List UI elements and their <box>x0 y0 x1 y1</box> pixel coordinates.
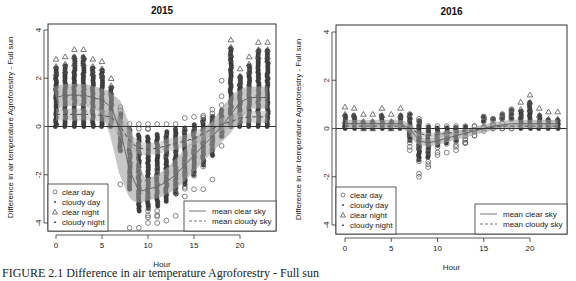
y-tick-label: 4 <box>322 29 331 34</box>
y-tick-label: 4 <box>34 27 43 32</box>
y-axis: -4-2024Difference in air temperature Agr… <box>6 27 48 226</box>
y-axis-label: Difference in air temperature Agroforest… <box>294 39 303 221</box>
x-axis-label: Hour <box>443 263 461 272</box>
y-tick-label: 0 <box>34 124 43 129</box>
legend-label: clear night <box>350 211 388 220</box>
figure: 2015-4-2024Difference in air temperature… <box>0 0 576 281</box>
legend-points: clear daycloudy dayclear nightcloudy nig… <box>336 187 396 234</box>
x-axis: 05101520Hour <box>343 238 535 272</box>
x-tick-label: 15 <box>190 241 199 250</box>
x-tick-label: 0 <box>343 244 348 253</box>
chart-panel-2015: 2015-4-2024Difference in air temperature… <box>6 5 276 269</box>
x-axis: 05101520Hour <box>54 235 245 269</box>
legend-lines: mean clear skymean cloudy sky <box>475 204 567 234</box>
chart-title: 2015 <box>151 5 174 16</box>
legend-label: mean clear sky <box>503 210 557 219</box>
legend-label: mean clear sky <box>212 207 266 216</box>
y-tick-label: 2 <box>34 75 43 80</box>
x-tick-label: 20 <box>236 241 245 250</box>
legend-label: mean cloudy sky <box>503 220 563 229</box>
x-tick-label: 10 <box>433 244 442 253</box>
y-axis-label: Difference in air temperature Agroforest… <box>6 37 15 219</box>
y-tick-label: 0 <box>322 126 331 131</box>
chart-title: 2016 <box>440 6 463 17</box>
y-tick-label: -4 <box>322 221 331 229</box>
legend-lines: mean clear skymean cloudy sky <box>184 201 276 231</box>
mean-lines <box>345 124 558 143</box>
chart-panel-2016: 2016-4-2024Difference in air temperature… <box>294 6 567 272</box>
legend-points: clear daycloudy dayclear nightcloudy nig… <box>48 184 108 231</box>
x-tick-label: 15 <box>479 244 488 253</box>
y-tick-label: -2 <box>322 173 331 181</box>
x-tick-label: 10 <box>144 241 153 250</box>
y-axis: -4-2024Difference in air temperature Agr… <box>294 29 336 228</box>
legend-label: mean cloudy sky <box>212 217 272 226</box>
y-tick-label: -2 <box>34 171 43 179</box>
legend-label: clear day <box>62 188 94 197</box>
y-tick-label: -4 <box>34 219 43 227</box>
legend-label: clear night <box>62 208 100 217</box>
x-tick-label: 5 <box>100 241 105 250</box>
legend-label: clear day <box>350 191 382 200</box>
legend-label: cloudy night <box>350 221 393 230</box>
legend-label: cloudy day <box>350 201 388 210</box>
x-tick-label: 5 <box>389 244 394 253</box>
x-tick-label: 20 <box>526 244 535 253</box>
legend-label: cloudy day <box>62 198 100 207</box>
x-tick-label: 0 <box>54 241 59 250</box>
y-tick-label: 2 <box>322 77 331 82</box>
figure-caption: FIGURE 2.1 Difference in air temperature… <box>2 266 319 281</box>
mean-lines <box>56 95 268 192</box>
legend-label: cloudy night <box>62 218 105 227</box>
